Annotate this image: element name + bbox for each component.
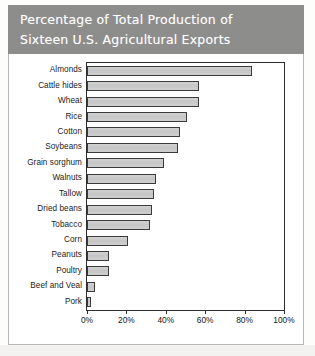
bar-row: [87, 78, 284, 93]
x-axis-tick: [245, 310, 246, 314]
category-label: Soybeans: [9, 139, 82, 154]
x-axis-tick-label: 60%: [197, 315, 214, 325]
bar: [87, 282, 95, 292]
category-label: Peanuts: [9, 247, 82, 262]
bar-row: [87, 233, 284, 248]
bar: [87, 297, 91, 307]
bar-row: [87, 187, 284, 202]
bar: [87, 236, 128, 246]
x-axis-tick-label: 0%: [81, 315, 93, 325]
x-axis-tick-label: 40%: [157, 315, 174, 325]
x-axis-tick: [126, 310, 127, 314]
page-title-line-1: Percentage of Total Production of: [20, 10, 294, 30]
bar: [87, 220, 150, 230]
bar: [87, 205, 152, 215]
bar-row: [87, 295, 284, 310]
bar: [87, 127, 180, 137]
bar: [87, 189, 154, 199]
bar: [87, 97, 199, 107]
x-axis-tick: [205, 310, 206, 314]
page-title-line-2: Sixteen U.S. Agricultural Exports: [20, 30, 294, 50]
bar-row: [87, 125, 284, 140]
x-axis-tick-label: 80%: [236, 315, 253, 325]
category-label: Cattle hides: [9, 77, 82, 92]
bar-row: [87, 94, 284, 109]
category-label: Grain sorghum: [9, 155, 82, 170]
category-label: Cotton: [9, 124, 82, 139]
x-axis-tick-label: 100%: [273, 315, 294, 325]
category-label: Rice: [9, 108, 82, 123]
category-label: Dried beans: [9, 201, 82, 216]
category-label: Walnuts: [9, 170, 82, 185]
category-label: Almonds: [9, 62, 82, 77]
bar: [87, 266, 109, 276]
category-label: Corn: [9, 232, 82, 247]
x-axis-tick: [284, 310, 285, 314]
bar-row: [87, 171, 284, 186]
bar: [87, 112, 187, 122]
category-axis-labels: AlmondsCattle hidesWheatRiceCottonSoybea…: [9, 62, 82, 309]
bar-row: [87, 279, 284, 294]
bar-row: [87, 202, 284, 217]
bar-row: [87, 156, 284, 171]
bar: [87, 66, 252, 76]
bar-row: [87, 264, 284, 279]
category-label: Beef and Veal: [9, 278, 82, 293]
category-label: Pork: [9, 294, 82, 309]
bar: [87, 174, 156, 184]
category-label: Tobacco: [9, 216, 82, 231]
category-label: Wheat: [9, 93, 82, 108]
bar-rows: [87, 63, 284, 310]
category-label: Poultry: [9, 263, 82, 278]
title-banner: Percentage of Total Production of Sixtee…: [8, 5, 304, 54]
x-axis-tick-label: 20%: [118, 315, 135, 325]
bar: [87, 158, 164, 168]
plot-area: 0%20%40%60%80%100%: [86, 62, 285, 311]
x-axis-tick: [166, 310, 167, 314]
bar: [87, 81, 199, 91]
bar-row: [87, 248, 284, 263]
bar-chart: AlmondsCattle hidesWheatRiceCottonSoybea…: [9, 54, 303, 344]
bar: [87, 143, 178, 153]
category-label: Tallow: [9, 186, 82, 201]
x-axis-tick: [87, 310, 88, 314]
bar-row: [87, 63, 284, 78]
scanned-page: Percentage of Total Production of Sixtee…: [0, 0, 315, 356]
bar-row: [87, 217, 284, 232]
bar-row: [87, 140, 284, 155]
bar-row: [87, 109, 284, 124]
bar: [87, 251, 109, 261]
